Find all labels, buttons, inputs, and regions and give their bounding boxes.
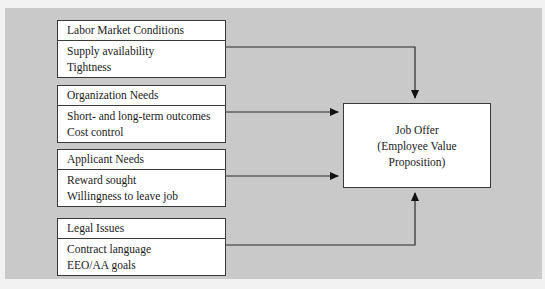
box-header: Organization Needs bbox=[58, 86, 225, 106]
box-item: Willingness to leave job bbox=[67, 188, 225, 204]
box-item: Reward sought bbox=[67, 172, 225, 188]
box-item: Short- and long-term outcomes bbox=[67, 108, 225, 124]
input-box-legal-issues: Legal Issues Contract language EEO/AA go… bbox=[57, 218, 226, 276]
box-header: Applicant Needs bbox=[58, 150, 225, 170]
diagram-canvas: Labor Market Conditions Supply availabil… bbox=[0, 0, 545, 289]
box-header: Labor Market Conditions bbox=[58, 21, 225, 41]
box-body: Short- and long-term outcomes Cost contr… bbox=[58, 106, 225, 143]
box-item: Supply availability bbox=[67, 43, 225, 59]
box-item: EEO/AA goals bbox=[67, 257, 225, 273]
input-box-applicant-needs: Applicant Needs Reward sought Willingnes… bbox=[57, 149, 226, 207]
box-body: Contract language EEO/AA goals bbox=[58, 239, 225, 276]
output-box-job-offer: Job Offer (Employee Value Proposition) bbox=[343, 103, 491, 188]
input-box-labor-market-conditions: Labor Market Conditions Supply availabil… bbox=[57, 20, 226, 78]
output-box-line: Job Offer bbox=[395, 122, 439, 138]
box-item: Tightness bbox=[67, 59, 225, 75]
box-item: Cost control bbox=[67, 124, 225, 140]
box-header: Legal Issues bbox=[58, 219, 225, 239]
output-box-line: (Employee Value bbox=[377, 138, 456, 154]
box-body: Reward sought Willingness to leave job bbox=[58, 170, 225, 207]
input-box-organization-needs: Organization Needs Short- and long-term … bbox=[57, 85, 226, 143]
output-box-line: Proposition) bbox=[389, 154, 446, 170]
box-body: Supply availability Tightness bbox=[58, 41, 225, 78]
box-item: Contract language bbox=[67, 241, 225, 257]
